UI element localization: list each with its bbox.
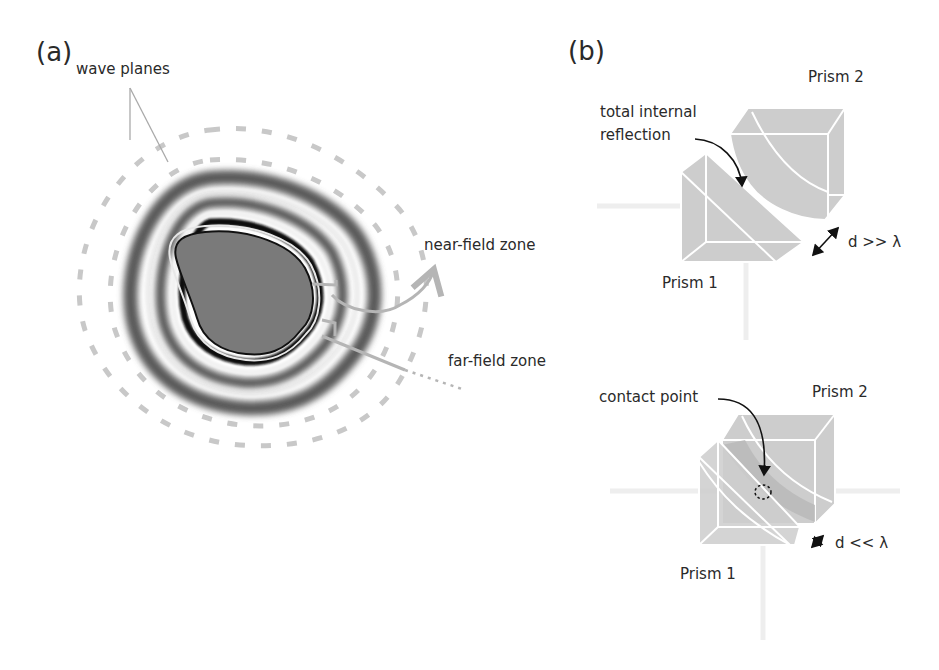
prism-2-label-top: Prism 2 [808,68,864,86]
panel-label-a: (a) [36,37,72,67]
panel-label-b: (b) [568,36,605,66]
tir-label-line1: total internal [600,103,697,121]
wave-planes-label: wave planes [76,60,170,78]
distance-arrow-bottom [812,536,823,547]
distance-arrow-top [813,228,838,255]
near-field-label: near-field zone [424,236,535,254]
diagram-canvas [0,0,939,670]
distance-label-bottom: d << λ [835,534,888,552]
tir-label-line2: reflection [600,126,671,144]
wave-planes-pointer [130,88,168,162]
prism-1-label-bottom: Prism 1 [680,565,736,583]
distance-label-top: d >> λ [848,233,901,251]
panel-b-bottom-figure [610,399,900,640]
contact-point-label: contact point [599,388,698,406]
prism-1-label-top: Prism 1 [662,274,718,292]
far-field-label: far-field zone [448,352,546,370]
prism-2-label-bottom: Prism 2 [812,383,868,401]
panel-a-figure [79,88,465,446]
